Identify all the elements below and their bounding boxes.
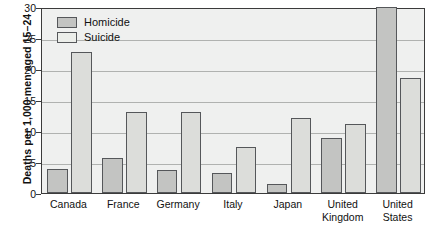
x-axis-tick-label-line: Kingdom: [315, 211, 370, 224]
bar-group: [376, 9, 421, 193]
x-axis-tick-label-line: Japan: [260, 198, 315, 211]
x-axis-tick-label-line: Canada: [41, 198, 96, 211]
bar-homicide: [157, 170, 178, 193]
y-axis-tickmark: [36, 101, 41, 102]
bar-suicide: [345, 124, 366, 193]
x-axis-tick-label-line: United: [315, 198, 370, 211]
y-axis-tick-label: 25: [12, 33, 36, 45]
y-axis-tick-label: 5: [12, 157, 36, 169]
bar-homicide: [321, 138, 342, 193]
y-axis-tick-label: 0: [12, 188, 36, 200]
bar-group: [212, 9, 257, 193]
bar-group: [321, 9, 366, 193]
x-axis-tick-label: Germany: [151, 198, 206, 211]
x-axis-tick-label-line: United: [370, 198, 425, 211]
bar-homicide: [102, 158, 123, 193]
y-axis-tickmark: [36, 39, 41, 40]
x-axis-tick-label: UnitedStates: [370, 198, 425, 223]
bar-suicide: [126, 112, 147, 193]
bar-suicide: [71, 52, 92, 193]
y-axis-tickmark: [36, 70, 41, 71]
bar-suicide: [400, 78, 421, 193]
bar-suicide: [236, 147, 257, 193]
x-axis-tick-label-line: States: [370, 211, 425, 224]
y-axis-tick-label: 15: [12, 95, 36, 107]
x-axis-tick-label-line: France: [96, 198, 151, 211]
bar-chart: Deaths per 1,000 men aged 15–24 05101520…: [0, 0, 435, 238]
x-axis-tick-label: Canada: [41, 198, 96, 211]
bar-homicide: [212, 173, 233, 193]
x-axis-tick-label-line: Germany: [151, 198, 206, 211]
x-axis-tick-label: Italy: [206, 198, 261, 211]
chart-legend: HomicideSuicide: [57, 17, 130, 43]
bar-suicide: [291, 118, 312, 193]
bar-homicide: [47, 169, 68, 193]
x-axis-tick-label: Japan: [260, 198, 315, 211]
legend-swatch-homicide: [57, 17, 77, 28]
legend-label: Suicide: [84, 32, 120, 43]
x-axis-tick-label-line: Italy: [206, 198, 261, 211]
y-axis-tick-labels: 051015202530: [12, 8, 36, 194]
bar-group: [157, 9, 202, 193]
x-axis-tick-label: UnitedKingdom: [315, 198, 370, 223]
legend-item: Suicide: [57, 32, 130, 43]
plot-area: HomicideSuicide: [41, 8, 425, 194]
bar-suicide: [181, 112, 202, 193]
y-axis-tick-label: 20: [12, 64, 36, 76]
y-axis-tickmark: [36, 194, 41, 195]
y-axis-tickmark: [36, 163, 41, 164]
legend-swatch-suicide: [57, 32, 77, 43]
legend-item: Homicide: [57, 17, 130, 28]
y-axis-tickmark: [36, 8, 41, 9]
x-axis-tick-label: France: [96, 198, 151, 211]
y-axis-tickmark: [36, 132, 41, 133]
bar-homicide: [376, 7, 397, 193]
y-axis-tick-label: 10: [12, 126, 36, 138]
x-axis-tick-labels: CanadaFranceGermanyItalyJapanUnitedKingd…: [41, 198, 425, 236]
bar-group: [267, 9, 312, 193]
y-axis-tick-label: 30: [12, 2, 36, 14]
legend-label: Homicide: [84, 17, 130, 28]
bar-homicide: [267, 184, 288, 193]
